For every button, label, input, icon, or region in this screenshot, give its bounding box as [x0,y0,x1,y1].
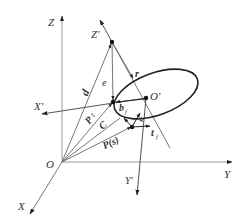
apex-point [110,40,114,44]
label-c: C [96,119,108,132]
label-bf: b [119,102,124,113]
label-z-prime: Z' [91,28,100,40]
label-d: d [78,87,91,98]
label-tf-sub: f [156,134,159,140]
vector-r-arrow [112,42,133,78]
z-prime-axis [100,20,112,42]
origin-prime-point [144,96,148,100]
vector-p1 [62,103,112,162]
label-r: r [135,68,139,79]
diagram-canvas: Z Z' X' O O' Y Y' X d e r P 1 C P(s) b f… [0,0,246,223]
label-x-prime: X' [33,100,44,112]
label-o: O [46,158,54,170]
label-o-prime: O' [150,90,161,102]
label-x: X [17,200,26,212]
label-y: Y [224,168,232,180]
point-p1 [111,100,115,104]
label-bf-sub: f [125,109,128,115]
vector-e [112,42,113,100]
y-prime-axis [137,98,146,195]
label-y-prime: Y' [125,175,134,186]
vector-nf-back [124,118,132,127]
label-ps: P(s) [101,134,121,152]
label-z: Z [48,16,55,28]
vector-tf [132,126,150,127]
label-tf: t [151,127,155,138]
coordinate-frame-diagram: Z Z' X' O O' Y Y' X d e r P 1 C P(s) b f… [0,0,246,223]
vector-ps [62,127,131,162]
local-frame [42,20,170,195]
label-e: e [102,77,107,88]
